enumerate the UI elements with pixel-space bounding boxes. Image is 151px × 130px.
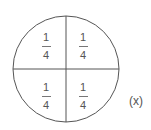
numerator: 1 — [73, 82, 93, 93]
numerator: 1 — [36, 32, 56, 43]
denominator: 4 — [36, 100, 56, 111]
numerator: 1 — [36, 82, 56, 93]
denominator: 4 — [36, 50, 56, 61]
denominator: 4 — [73, 100, 93, 111]
fraction-top-right: 1 4 — [73, 32, 93, 61]
fraction-bar — [42, 46, 51, 47]
numerator: 1 — [73, 32, 93, 43]
fraction-top-left: 1 4 — [36, 32, 56, 61]
fraction-bar — [79, 96, 88, 97]
fraction-bar — [79, 46, 88, 47]
fraction-bottom-left: 1 4 — [36, 82, 56, 111]
fraction-bar — [42, 96, 51, 97]
denominator: 4 — [73, 50, 93, 61]
fraction-bottom-right: 1 4 — [73, 82, 93, 111]
figure-label: (x) — [129, 94, 143, 108]
